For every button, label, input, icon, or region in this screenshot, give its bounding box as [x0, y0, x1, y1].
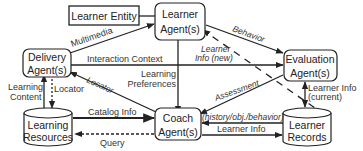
label-catalog-info: Catalog Info — [88, 107, 137, 117]
label-assessment: Assessment — [212, 77, 260, 103]
label-learning-preferences-2: Preferences — [127, 79, 176, 89]
label-learning-content-2: Content — [10, 92, 42, 102]
label-learner-info: Learner Info — [217, 124, 266, 134]
edge-assessment — [200, 75, 283, 114]
delivery-agent-label-1: Delivery — [28, 51, 67, 63]
evaluation-agent-label-1: Evaluation — [285, 53, 334, 65]
label-behavior: Behavior — [231, 23, 267, 44]
coach-agent-label-2: Agent(s) — [158, 126, 198, 138]
node-learner-records: Learner Records — [283, 108, 331, 146]
learner-records-label-1: Learner — [289, 119, 326, 131]
label-learner-info-current-2: (current) — [308, 92, 342, 102]
label-learning-content-1: Learning — [8, 82, 43, 92]
node-delivery-agent: Delivery Agent(s) — [23, 49, 71, 77]
learning-system-diagram: Learner Entity Learner Agent(s) Delivery… — [0, 0, 363, 151]
node-coach-agent: Coach Agent(s) — [155, 108, 201, 140]
coach-agent-label-1: Coach — [163, 112, 194, 124]
learning-resources-label-1: Learning — [28, 119, 69, 131]
label-query: Query — [100, 138, 125, 148]
label-locator-diag: Locator — [85, 75, 116, 96]
learner-agent-label-1: Learner — [162, 8, 199, 20]
learning-resources-label-2: Resources — [23, 131, 73, 143]
node-learner-agent: Learner Agent(s) — [155, 3, 205, 40]
label-learner-info-new-2: Info (new) — [195, 53, 233, 63]
delivery-agent-label-2: Agent(s) — [27, 64, 67, 76]
label-learning-preferences-1: Learning — [141, 69, 176, 79]
node-evaluation-agent: Evaluation Agent(s) — [284, 50, 337, 81]
evaluation-agent-label-2: Agent(s) — [290, 67, 330, 79]
node-learner-entity: Learner Entity — [69, 6, 139, 25]
node-learning-resources: Learning Resources — [23, 108, 73, 146]
learner-agent-label-2: Agent(s) — [160, 23, 200, 35]
label-history: (history/obj./behavior) — [202, 112, 284, 122]
learner-entity-label: Learner Entity — [71, 10, 137, 22]
label-interaction-context: Interaction Context — [87, 54, 163, 64]
learner-records-label-2: Records — [287, 131, 326, 143]
label-locator-vertical: Locator — [54, 84, 84, 94]
